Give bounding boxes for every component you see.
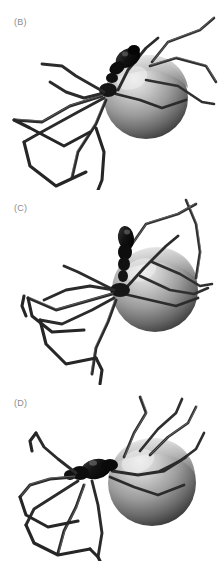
panel-d: (D)	[0, 385, 219, 561]
spider-figure-d	[0, 385, 219, 561]
panel-c: (C)	[0, 190, 219, 390]
spider-figure-b	[0, 0, 219, 190]
panel-b: (B)	[0, 0, 219, 190]
spider-figure-c	[0, 190, 219, 390]
figure-page: (B)	[0, 0, 219, 561]
